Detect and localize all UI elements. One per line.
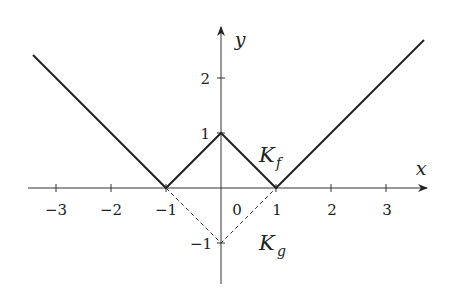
svg-text:K: K xyxy=(258,143,276,167)
x-tick-label: 1 xyxy=(272,201,282,219)
x-tick-label: 2 xyxy=(327,201,337,219)
x-tick-label: −1 xyxy=(155,201,177,219)
y-tick-label: −1 xyxy=(190,235,212,253)
x-tick-label: −3 xyxy=(45,201,67,219)
svg-text:f: f xyxy=(275,155,284,171)
svg-text:K: K xyxy=(258,231,276,255)
curve-k-f xyxy=(33,40,424,188)
x-axis-label: x xyxy=(416,157,427,179)
plot-canvas: −3 −2 −1 0 1 2 3 2 1 −1 x y K f K g xyxy=(0,0,450,294)
x-tick-label: −2 xyxy=(100,201,122,219)
x-tick-label: 0 xyxy=(232,201,242,219)
x-tick-label: 3 xyxy=(382,201,392,219)
svg-text:g: g xyxy=(277,243,286,259)
y-axis-label: y xyxy=(234,28,246,50)
y-tick-label: 1 xyxy=(200,125,210,143)
label-k-g: K g xyxy=(258,231,286,259)
y-tick-label: 2 xyxy=(200,70,210,88)
label-k-f: K f xyxy=(258,143,284,171)
